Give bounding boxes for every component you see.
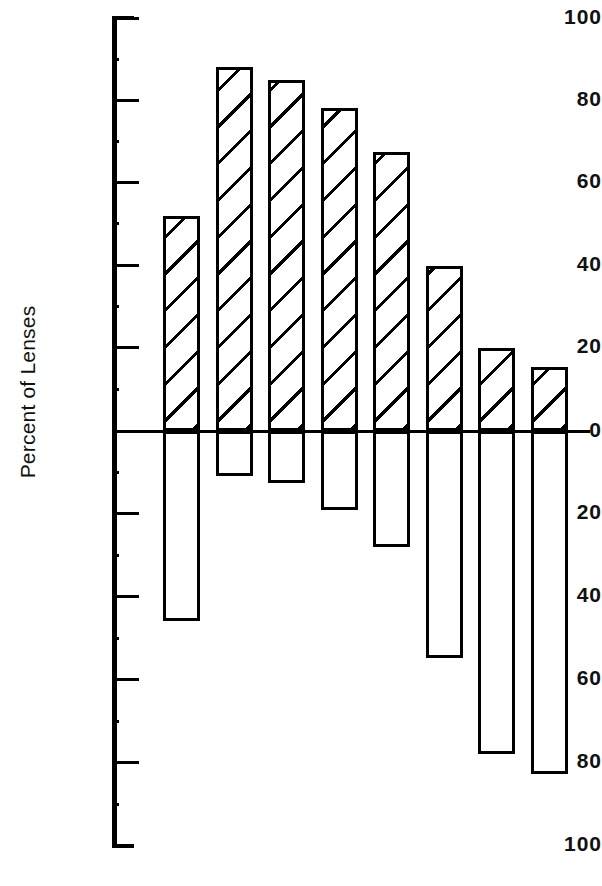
bar-negative-4 — [321, 431, 358, 510]
zero-baseline-overlay — [112, 430, 590, 433]
bar-positive-2 — [216, 67, 253, 431]
bar-positive-1 — [163, 216, 200, 431]
bar-positive-6 — [426, 266, 463, 431]
bar-negative-2 — [216, 431, 253, 476]
bar-positive-8 — [531, 367, 568, 431]
bar-positive-3 — [268, 80, 305, 431]
bar-negative-8 — [531, 431, 568, 774]
bar-negative-7 — [478, 431, 515, 754]
bar-negative-6 — [426, 431, 463, 658]
bar-positive-7 — [478, 348, 515, 431]
bar-negative-5 — [373, 431, 410, 547]
chart-figure: Percent of Lenses 100 80 60 40 20 0 20 4… — [0, 0, 602, 886]
bar-plot-area — [0, 0, 602, 886]
bar-negative-3 — [268, 431, 305, 483]
bar-negative-1 — [163, 431, 200, 621]
bar-positive-4 — [321, 108, 358, 431]
bar-positive-5 — [373, 152, 410, 431]
